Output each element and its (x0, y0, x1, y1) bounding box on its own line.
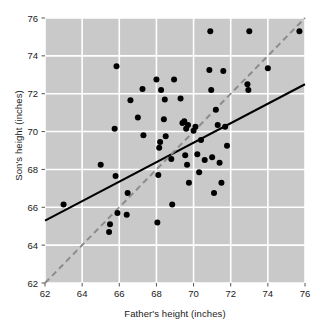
data-point (169, 201, 175, 207)
data-point (162, 96, 168, 102)
data-point (209, 154, 215, 160)
data-point (296, 28, 302, 34)
data-point (215, 122, 221, 128)
data-point (127, 97, 133, 103)
data-point (112, 126, 118, 132)
data-point (246, 28, 252, 34)
data-point (194, 151, 200, 157)
x-tick-label: 62 (40, 288, 51, 299)
data-point (171, 77, 177, 83)
data-point (222, 124, 228, 130)
data-point (168, 156, 174, 162)
data-point (113, 173, 119, 179)
data-point (155, 172, 161, 178)
y-tick-label: 64 (27, 240, 38, 251)
y-tick-label: 66 (27, 202, 38, 213)
data-point (161, 116, 167, 122)
data-point (202, 157, 208, 163)
data-point (158, 87, 164, 93)
data-point (207, 28, 213, 34)
x-tick-label: 76 (300, 288, 311, 299)
data-point (198, 137, 204, 143)
x-axis-title: Father's height (inches) (45, 308, 305, 319)
data-point (184, 162, 190, 168)
y-axis-title: Son's height (inches) (13, 56, 24, 216)
data-point (140, 86, 146, 92)
x-tick-label: 68 (151, 288, 162, 299)
data-point (196, 169, 202, 175)
data-point (178, 95, 184, 101)
y-tick-label: 70 (27, 126, 38, 137)
y-tick-label: 68 (27, 164, 38, 175)
data-point (211, 190, 217, 196)
data-point (140, 132, 146, 138)
data-point (185, 122, 191, 128)
x-tick-label: 74 (263, 288, 274, 299)
data-point (114, 210, 120, 216)
y-tick-label: 74 (27, 50, 38, 61)
data-point (265, 65, 271, 71)
data-point (213, 107, 219, 113)
data-point (153, 77, 159, 83)
data-point (154, 219, 160, 225)
data-point (114, 63, 120, 69)
data-point (135, 114, 141, 120)
x-tick-label: 66 (114, 288, 125, 299)
y-tick-label: 62 (27, 278, 38, 289)
scatter-plot-figure: 62646668707274766264666870727476 Son's h… (0, 0, 315, 319)
data-point (244, 81, 250, 87)
x-tick-label: 72 (225, 288, 236, 299)
x-tick-label: 70 (188, 288, 199, 299)
data-point (124, 212, 130, 218)
data-point (156, 145, 162, 151)
data-point (217, 160, 223, 166)
data-point (106, 229, 112, 235)
data-point (107, 221, 113, 227)
data-point (220, 68, 226, 74)
data-point (245, 87, 251, 93)
plot-canvas: 62646668707274766264666870727476 (0, 0, 315, 319)
y-tick-label: 76 (27, 13, 38, 24)
data-point (61, 201, 67, 207)
data-point (192, 124, 198, 130)
x-tick-label: 64 (77, 288, 88, 299)
data-point (98, 162, 104, 168)
data-point (182, 152, 188, 158)
data-point (208, 87, 214, 93)
data-point (157, 139, 163, 145)
data-point (186, 180, 192, 186)
data-point (163, 133, 169, 139)
data-point (206, 67, 212, 73)
data-point (125, 190, 131, 196)
y-tick-label: 72 (27, 88, 38, 99)
data-point (224, 143, 230, 149)
data-point (218, 180, 224, 186)
